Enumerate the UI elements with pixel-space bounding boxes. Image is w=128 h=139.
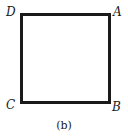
square-outline: [20, 13, 111, 104]
vertex-label-b: B: [112, 101, 121, 113]
vertex-label-a: A: [113, 6, 122, 18]
figure-caption: (b): [0, 119, 128, 132]
vertex-label-d: D: [6, 6, 16, 18]
vertex-label-c: C: [6, 99, 15, 111]
